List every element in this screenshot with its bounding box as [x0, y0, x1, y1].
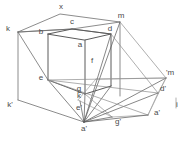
label-m: m: [118, 12, 125, 20]
outer-box-group: [18, 14, 120, 122]
label-a-prime-right: a': [154, 109, 160, 117]
label-e: e: [39, 74, 43, 82]
label-g-prime: g': [115, 118, 121, 126]
ray-aprime-to-m: [84, 22, 120, 122]
label-k-inner: k: [77, 92, 81, 100]
label-b: b: [39, 28, 43, 36]
label-i: i: [176, 101, 178, 109]
label-k: k: [6, 25, 10, 33]
aux-e-to-mprime: [48, 78, 166, 80]
aux-d-to-dprime: [111, 34, 158, 93]
label-a: a: [78, 41, 82, 49]
outer-box-k-e-edge: [18, 32, 48, 80]
aux-m-to-mprime: [120, 22, 166, 78]
label-e-prime: e': [76, 104, 82, 112]
label-m-prime: 'm: [166, 69, 174, 77]
label-f: f: [91, 57, 93, 65]
label-a-prime: a': [81, 125, 87, 133]
label-k-prime: k': [7, 101, 13, 109]
ray-aprime-to-g: [84, 94, 85, 122]
figure-canvas: [0, 0, 186, 142]
geometry-figure: x k c m b d a f e g 'm k' k d' e' i a' g…: [0, 0, 186, 142]
ray-aprime-to-d: [84, 34, 111, 122]
label-x: x: [59, 3, 63, 11]
label-d: d: [108, 25, 112, 33]
inner-cube-top-face: [48, 29, 111, 40]
label-c: c: [70, 18, 74, 26]
label-d-prime: d': [160, 85, 166, 93]
